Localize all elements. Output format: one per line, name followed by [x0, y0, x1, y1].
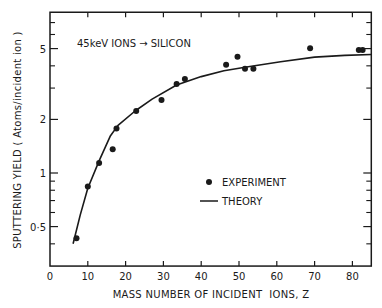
y-tick-label: 0·5	[30, 222, 46, 233]
x-tick-label: 70	[308, 271, 321, 282]
x-tick-label: 0	[47, 271, 53, 282]
x-tick-label: 40	[195, 271, 208, 282]
legend-experiment-label: EXPERIMENT	[222, 177, 287, 188]
y-tick-label: 5	[40, 44, 46, 55]
experiment-point	[360, 47, 366, 53]
experiment-point	[114, 125, 120, 131]
experiment-point	[174, 81, 180, 87]
x-tick-label: 30	[157, 271, 170, 282]
experiment-point	[182, 76, 188, 82]
legend-experiment-marker-icon	[206, 179, 212, 185]
experiment-point	[250, 66, 256, 72]
x-axis-title: MASS NUMBER OF INCIDENT IONS, Z	[113, 289, 310, 300]
experiment-point	[242, 66, 248, 72]
x-tick-label: 10	[81, 271, 94, 282]
experiment-point	[74, 235, 80, 241]
sputtering-yield-chart: 01020304050607080 0·5125 45keV IONS → SI…	[0, 0, 382, 308]
plot-axes	[50, 12, 371, 266]
chart-annotation: 45keV IONS → SILICON	[77, 38, 191, 49]
experiment-point	[133, 108, 139, 114]
plot-frame	[50, 12, 371, 266]
y-tick-label: 2	[40, 114, 46, 125]
experiment-point	[110, 146, 116, 152]
x-tick-label: 60	[270, 271, 283, 282]
x-tick-label: 50	[233, 271, 246, 282]
x-tick-label: 80	[346, 271, 359, 282]
x-tick-label: 20	[119, 271, 132, 282]
theory-line	[73, 55, 371, 244]
x-axis-ticks: 01020304050607080	[47, 12, 359, 282]
legend-theory-label: THEORY	[221, 196, 263, 207]
experiment-point	[85, 184, 91, 190]
theory-curve	[73, 55, 371, 244]
experiment-points	[74, 45, 366, 241]
legend: EXPERIMENT THEORY	[200, 177, 287, 207]
experiment-point	[96, 160, 102, 166]
y-axis-title: SPUTTERING YIELD ( Atoms/incident ion )	[12, 31, 23, 249]
experiment-point	[307, 45, 313, 51]
y-tick-label: 1	[40, 168, 46, 179]
experiment-point	[223, 62, 229, 68]
experiment-point	[235, 54, 241, 60]
experiment-point	[159, 97, 165, 103]
